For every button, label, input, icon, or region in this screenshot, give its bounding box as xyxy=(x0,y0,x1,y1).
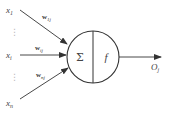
neuron-diagram: x1 w1j ⋮ xi wij ⋮ xn wnj Σ f Oj xyxy=(0,0,170,117)
input-x1: x1 w1j xyxy=(5,5,67,44)
sum-symbol: Σ xyxy=(76,51,84,64)
ellipsis-upper: ⋮ xyxy=(10,27,19,37)
output: Oj xyxy=(119,57,161,73)
neuron-node: Σ f xyxy=(67,31,119,83)
input-xi: xi wij xyxy=(5,44,66,61)
weight-label-wij: wij xyxy=(35,44,43,53)
output-label: Oj xyxy=(151,62,160,73)
input-label-xn: xn xyxy=(5,98,13,109)
input-label-xi: xi xyxy=(5,50,12,61)
weight-label-w1j: w1j xyxy=(42,13,52,22)
weight-label-wnj: wnj xyxy=(36,71,46,80)
input-label-x1: x1 xyxy=(5,5,13,16)
input-arrow-xn xyxy=(20,68,68,99)
ellipsis-lower: ⋮ xyxy=(10,72,19,82)
